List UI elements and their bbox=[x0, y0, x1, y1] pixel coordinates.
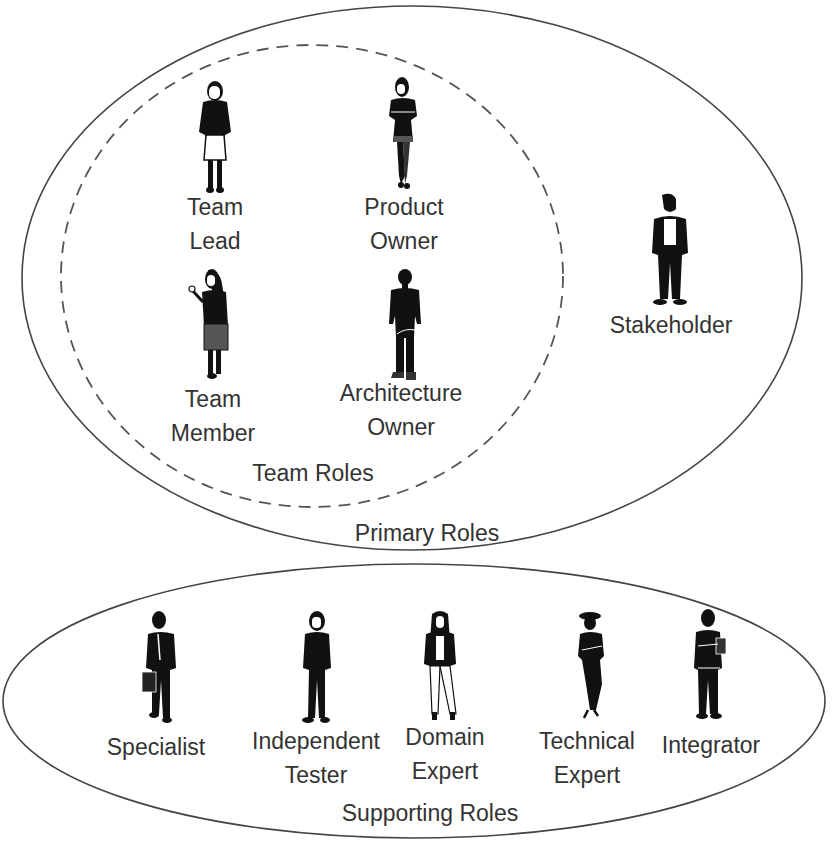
woman-holding-item-silhouette-icon bbox=[186, 268, 236, 384]
role-label-line: Architecture bbox=[340, 376, 463, 410]
role-label-line: Integrator bbox=[662, 728, 760, 762]
man-tablet-silhouette-icon bbox=[690, 608, 734, 724]
role-label-specialist: Specialist bbox=[107, 730, 205, 764]
woman-suit-silhouette-icon bbox=[295, 610, 339, 726]
role-label-line: Stakeholder bbox=[610, 308, 733, 342]
team-roles-dashed-ellipse bbox=[61, 45, 563, 507]
role-label-line: Member bbox=[171, 416, 255, 450]
woman-hat-silhouette-icon bbox=[572, 610, 612, 726]
role-label-team-lead: Team Lead bbox=[187, 190, 243, 258]
role-label-line: Technical bbox=[539, 724, 635, 758]
role-label-line: Domain bbox=[405, 720, 484, 754]
man-suit-silhouette-icon bbox=[648, 193, 692, 309]
team-roles-label: Team Roles bbox=[252, 458, 373, 488]
role-label-line: Independent bbox=[252, 724, 380, 758]
role-label-domain-expert: Domain Expert bbox=[405, 720, 484, 788]
role-label-team-member: Team Member bbox=[171, 382, 255, 450]
role-label-stakeholder: Stakeholder bbox=[610, 308, 733, 342]
role-label-line: Specialist bbox=[107, 730, 205, 764]
role-label-line: Team bbox=[171, 382, 255, 416]
primary-roles-label: Primary Roles bbox=[355, 518, 499, 548]
role-label-line: Expert bbox=[539, 758, 635, 792]
role-label-line: Owner bbox=[340, 410, 463, 444]
role-label-line: Product bbox=[364, 190, 443, 224]
role-label-independent-tester: Independent Tester bbox=[252, 724, 380, 792]
man-casual-silhouette-icon bbox=[385, 268, 425, 384]
role-label-line: Expert bbox=[405, 754, 484, 788]
woman-arms-crossed-silhouette-icon bbox=[383, 76, 423, 192]
role-label-line: Tester bbox=[252, 758, 380, 792]
role-label-integrator: Integrator bbox=[662, 728, 760, 762]
role-label-line: Team bbox=[187, 190, 243, 224]
role-label-architecture-owner: Architecture Owner bbox=[340, 376, 463, 444]
woman-silhouette-icon bbox=[193, 80, 237, 196]
supporting-roles-label: Supporting Roles bbox=[342, 798, 518, 828]
role-label-line: Lead bbox=[187, 224, 243, 258]
role-label-line: Owner bbox=[364, 224, 443, 258]
role-label-product-owner: Product Owner bbox=[364, 190, 443, 258]
role-label-technical-expert: Technical Expert bbox=[539, 724, 635, 792]
woman-jacket-silhouette-icon bbox=[418, 610, 462, 726]
man-briefcase-silhouette-icon bbox=[140, 610, 184, 726]
